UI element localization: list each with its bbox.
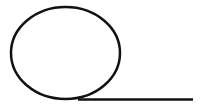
loop-ellipse [11,7,120,99]
loop-diagram [0,0,201,106]
diagram-canvas [0,0,201,106]
